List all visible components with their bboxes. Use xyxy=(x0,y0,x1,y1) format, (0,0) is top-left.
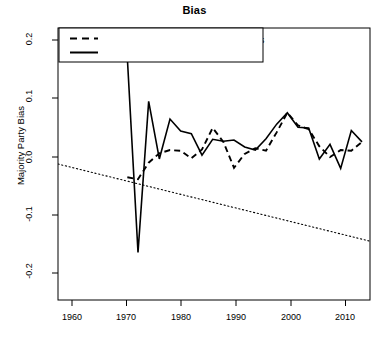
chart-figure: Bias Majority Party Bias 0.2 0.1 0.0 -0.… xyxy=(0,0,389,341)
series-conference-line xyxy=(127,58,362,253)
plot-border xyxy=(58,28,370,300)
y-axis-ticks xyxy=(52,40,58,273)
x-axis-ticks xyxy=(72,300,346,306)
legend-box xyxy=(59,28,263,62)
series-trend-line xyxy=(58,164,370,241)
plot-area xyxy=(0,0,389,341)
